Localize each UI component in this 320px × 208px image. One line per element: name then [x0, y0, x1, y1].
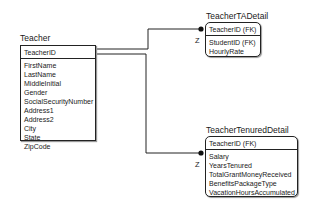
ta-detail-pk-teacherid: TeacherID (FK) — [209, 25, 257, 34]
tenured-detail-pk-teacherid: TeacherID (FK) — [209, 139, 294, 148]
ta-detail-attr-studentid: StudentID (FK) — [209, 38, 257, 47]
teacher-attr-state: State — [24, 133, 92, 142]
cardinality-z-tenured: Z — [195, 160, 200, 169]
ta-detail-attr-hourlyrate: HourlyRate — [209, 47, 257, 56]
teacher-attr-address1: Address1 — [24, 106, 92, 115]
tenured-detail-attr-salary: Salary — [209, 152, 294, 161]
tenured-detail-entity-title: TeacherTenuredDetail — [206, 125, 289, 135]
teacher-attr-ssn: SocialSecurityNumber — [24, 97, 92, 106]
teacher-attr-middleinitial: MiddleInitial — [24, 79, 92, 88]
ta-detail-attributes: StudentID (FK) HourlyRate — [206, 36, 260, 58]
tenured-detail-attr-totalgrantmoney: TotalGrantMoneyReceived — [209, 170, 294, 179]
teacher-entity-title: Teacher — [20, 33, 50, 43]
teacher-pk-section: TeacherID — [21, 46, 95, 59]
ta-detail-entity[interactable]: TeacherID (FK) StudentID (FK) HourlyRate — [205, 22, 261, 57]
tenured-detail-attr-yearstenured: YearsTenured — [209, 161, 294, 170]
tenured-detail-attr-benefitspackagetype: BenefitsPackageType — [209, 179, 294, 188]
teacher-pk-teacherid: TeacherID — [24, 48, 92, 57]
ta-detail-pk-section: TeacherID (FK) — [206, 23, 260, 36]
teacher-attributes: FirstName LastName MiddleInitial Gender … — [21, 59, 95, 153]
cardinality-z-ta: Z — [195, 36, 200, 45]
ta-detail-entity-title: TeacherTADetail — [206, 11, 268, 21]
teacher-attr-address2: Address2 — [24, 115, 92, 124]
teacher-entity[interactable]: TeacherID FirstName LastName MiddleIniti… — [20, 45, 96, 141]
teacher-attr-city: City — [24, 124, 92, 133]
tenured-detail-attributes: Salary YearsTenured TotalGrantMoneyRecei… — [206, 150, 297, 199]
teacher-attr-zipcode: ZipCode — [24, 142, 92, 151]
teacher-attr-gender: Gender — [24, 88, 92, 97]
teacher-attr-lastname: LastName — [24, 70, 92, 79]
teacher-attr-firstname: FirstName — [24, 61, 92, 70]
tenured-detail-pk-section: TeacherID (FK) — [206, 137, 297, 150]
tenured-detail-entity[interactable]: TeacherID (FK) Salary YearsTenured Total… — [205, 136, 298, 197]
tenured-detail-attr-vacationhours: VacationHoursAccumulated — [209, 188, 294, 197]
